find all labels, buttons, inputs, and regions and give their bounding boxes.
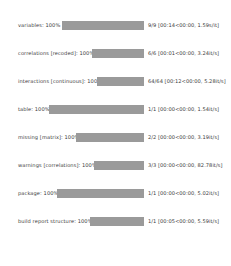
progress-bar-track (62, 21, 144, 30)
progress-stats: 1/1 [00:00<00:00, 1.54it/s] (144, 106, 219, 113)
progress-bar-fill (94, 161, 144, 170)
progress-bar-fill (49, 105, 144, 114)
progress-bar-track (57, 189, 144, 198)
progress-bar-fill (90, 217, 144, 226)
progress-stats: 6/6 [00:01<00:00, 3.24it/s] (144, 50, 219, 57)
progress-row: package: 100% 1/1 [00:00<00:00, 5.02it/s… (0, 179, 231, 207)
progress-row: table: 100% 1/1 [00:00<00:00, 1.54it/s] (0, 95, 231, 123)
progress-row: interactions [continuous]: 100% 64/64 [0… (0, 67, 231, 95)
progress-bar-list: variables: 100% 9/9 [00:14<00:00, 1.59s/… (0, 0, 231, 266)
progress-label: build report structure: 100% (18, 218, 90, 225)
progress-bar-track (92, 49, 144, 58)
progress-label: correlations [recoded]: 100% (18, 50, 92, 57)
progress-label: table: 100% (18, 106, 49, 113)
progress-bar-track (76, 133, 144, 142)
progress-row: warnings [correlations]: 100% 3/3 [00:00… (0, 151, 231, 179)
progress-stats: 9/9 [00:14<00:00, 1.59s/it] (144, 22, 219, 29)
progress-row: variables: 100% 9/9 [00:14<00:00, 1.59s/… (0, 11, 231, 39)
progress-bar-track (90, 217, 144, 226)
progress-bar-fill (97, 77, 144, 86)
progress-stats: 64/64 [00:12<00:00, 5.28it/s] (144, 78, 226, 85)
progress-bar-track (94, 161, 144, 170)
progress-bar-fill (76, 133, 144, 142)
progress-row: missing [matrix]: 100% 2/2 [00:00<00:00,… (0, 123, 231, 151)
progress-stats: 2/2 [00:00<00:00, 3.19it/s] (144, 134, 219, 141)
progress-label: package: 100% (18, 190, 57, 197)
progress-bar-track (49, 105, 144, 114)
progress-bar-fill (57, 189, 144, 198)
progress-bar-fill (62, 21, 144, 30)
progress-label: warnings [correlations]: 100% (18, 162, 94, 169)
progress-row: build report structure: 100% 1/1 [00:05<… (0, 207, 231, 235)
progress-label: interactions [continuous]: 100% (18, 78, 97, 85)
progress-row: correlations [recoded]: 100% 6/6 [00:01<… (0, 39, 231, 67)
progress-label: missing [matrix]: 100% (18, 134, 76, 141)
progress-stats: 1/1 [00:00<00:00, 5.02it/s] (144, 190, 219, 197)
progress-bar-track (97, 77, 144, 86)
progress-label: variables: 100% (18, 22, 62, 29)
progress-stats: 1/1 [00:05<00:00, 5.59it/s] (144, 218, 219, 225)
progress-bar-fill (92, 49, 144, 58)
progress-stats: 3/3 [00:00<00:00, 82.78it/s] (144, 162, 222, 169)
